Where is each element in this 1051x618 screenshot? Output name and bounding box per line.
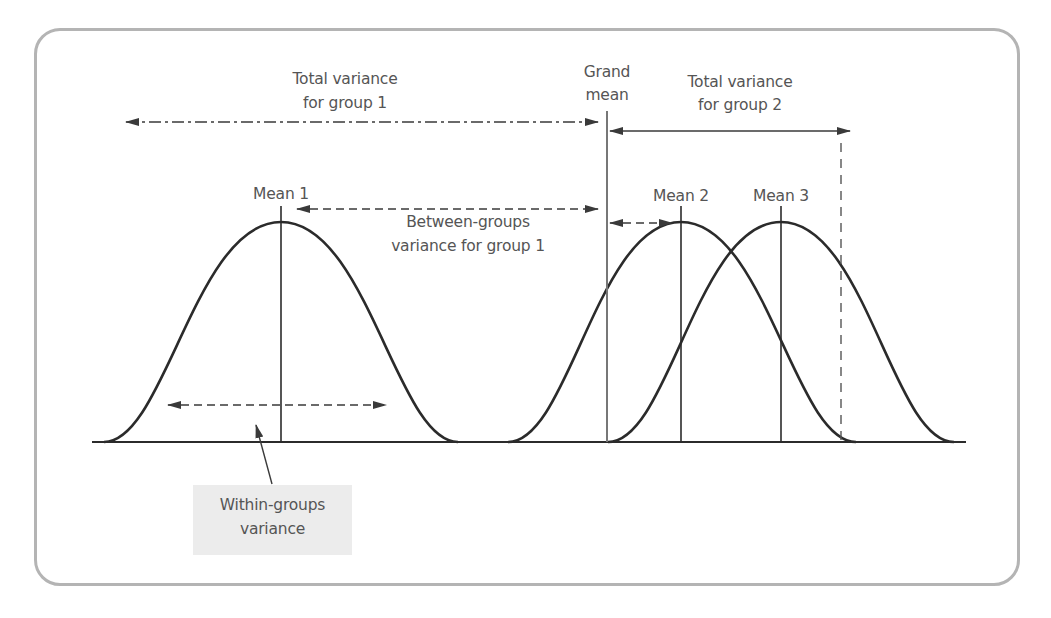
total-var-g1-label: Total variance for group 1 — [255, 69, 435, 113]
mean3-label: Mean 3 — [731, 186, 831, 206]
mean2-label: Mean 2 — [631, 186, 731, 206]
within-groups-pointer — [256, 425, 272, 484]
total-var-g2-label: Total variance for group 2 — [650, 72, 830, 115]
within-groups-label: Within-groups variance — [193, 495, 352, 539]
grand-mean-label: Grand mean — [572, 62, 642, 105]
between-groups-label: Between-groups variance for group 1 — [358, 212, 578, 256]
mean1-label: Mean 1 — [231, 184, 331, 204]
variance-diagram — [0, 0, 1051, 618]
